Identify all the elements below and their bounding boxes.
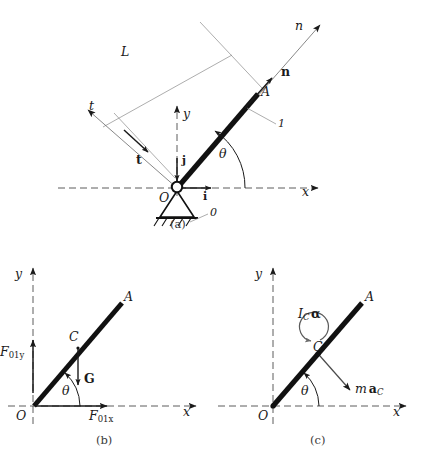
panel-c-inertia-a: a (369, 381, 377, 396)
panel-c-point-O-marker (270, 403, 275, 408)
panel-b-caption: (b) (96, 435, 112, 447)
panel-b-point-A-label: A (124, 291, 133, 304)
panel-a-t-axis (88, 110, 177, 188)
panel-a-point-A-label: A (261, 86, 270, 99)
panel-a-n-axis-label: n (295, 20, 303, 33)
dim-extension-line-O (114, 113, 175, 178)
panel-b-point-O-label: O (16, 410, 26, 423)
panel-b-F01x-base: F (89, 408, 98, 423)
panel-a-t-axis-label: t (89, 100, 94, 113)
panel-b-point-C-label: C (69, 331, 79, 344)
panel-a-unit-vector-i-label: i (203, 191, 207, 202)
panel-a-leader-link-1 (247, 108, 276, 124)
panel-c-inertia-force-label: maC (355, 383, 383, 397)
dim-line-L (103, 55, 232, 127)
panel-b-graphics (8, 268, 196, 424)
panel-c-caption: (c) (310, 435, 325, 447)
panel-c-moment-alpha: α (311, 306, 321, 321)
panel-a-y-axis-label: y (183, 108, 190, 121)
panel-b-x-axis-label: x (183, 406, 190, 419)
panel-c-inertia-m: m (355, 381, 367, 396)
panel-c-theta-label: θ (301, 385, 309, 398)
panel-a-unit-vector-j-label: j (182, 155, 186, 166)
panel-b-force-F01y-label: F01y (0, 346, 24, 360)
panel-c-inertia-sub: C (377, 387, 384, 397)
panel-b-F01x-sub: 01x (98, 414, 114, 424)
panel-a-point-O-label: O (159, 192, 169, 205)
panel-a-theta-label: θ (219, 148, 227, 161)
panel-c-y-axis-label: y (255, 268, 262, 281)
panel-a-caption: (a) (170, 219, 186, 231)
panel-c-graphics (218, 268, 406, 424)
panel-b-theta-label: θ (62, 385, 70, 398)
panel-b-y-axis-label: y (15, 268, 22, 281)
panel-c-moment-sub: C (303, 312, 310, 322)
panel-b-weight-label: G (84, 373, 95, 386)
panel-c-point-A-label: A (365, 291, 374, 304)
panel-c-moment-label: ICα (298, 308, 321, 322)
pin-joint-O (172, 182, 182, 192)
panel-a-ground-label: 0 (210, 207, 217, 218)
panel-a-unit-vector-t-label: t (136, 154, 142, 167)
panel-c-point-C-label: C (313, 341, 323, 354)
panel-c-point-O-label: O (258, 410, 268, 423)
panel-c-x-axis-label: x (393, 406, 400, 419)
dim-extension-line-A (200, 22, 262, 88)
panel-b-F01y-sub: 01y (9, 350, 25, 360)
panel-b-point-C-marker (76, 346, 79, 349)
panel-a-link-label: 1 (278, 118, 285, 129)
panel-a-unit-vector-n-label: n (281, 66, 290, 79)
panel-a-length-label: L (121, 46, 129, 59)
panel-b-F01y-base: F (0, 344, 9, 359)
panel-a-x-axis-label: x (302, 186, 309, 199)
panel-b-force-F01x-label: F01x (89, 410, 113, 424)
panel-c-inertia-force-maC (320, 356, 350, 390)
panel-a-unit-vector-t (124, 130, 148, 152)
length-dimension-L (67, 22, 262, 178)
